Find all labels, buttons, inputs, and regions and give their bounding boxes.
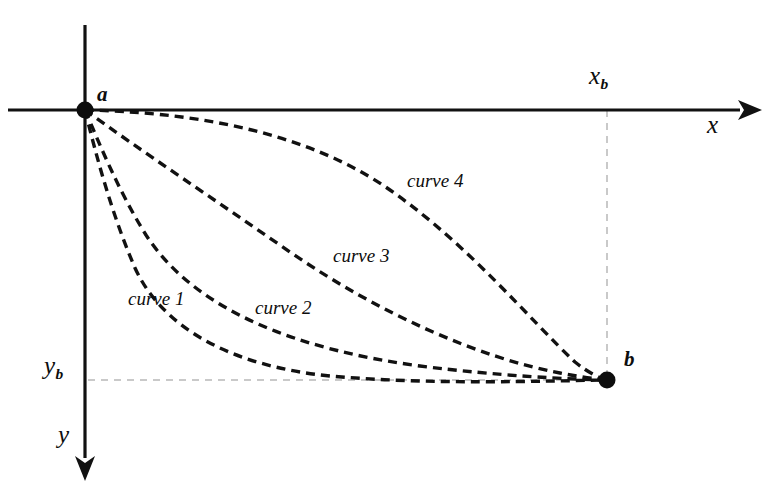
curve-2-label: curve 2 [255, 297, 311, 319]
point-a-label: a [97, 82, 108, 107]
brachistochrone-diagram: a b x y xb yb curve 1 curve 2 curve 3 cu… [0, 0, 778, 492]
x-axis-arrowhead [738, 100, 762, 120]
y-b-tick-label: yb [44, 352, 63, 383]
y-axis-arrowhead [75, 456, 95, 481]
y-b-tick-subscript: b [56, 365, 64, 382]
y-b-tick-base: y [44, 352, 55, 379]
x-axis-label: x [707, 111, 718, 139]
y-axis-label: y [58, 421, 69, 449]
point-b-label: b [624, 347, 635, 372]
curve-3-label: curve 3 [333, 245, 389, 267]
x-b-tick-subscript: b [601, 75, 609, 92]
x-b-tick-base: x [589, 62, 600, 89]
point-b-marker [599, 372, 616, 389]
curve-4-label: curve 4 [407, 170, 463, 192]
curve-1-label: curve 1 [128, 288, 184, 310]
point-a-marker [77, 102, 94, 119]
x-b-tick-label: xb [589, 62, 608, 93]
